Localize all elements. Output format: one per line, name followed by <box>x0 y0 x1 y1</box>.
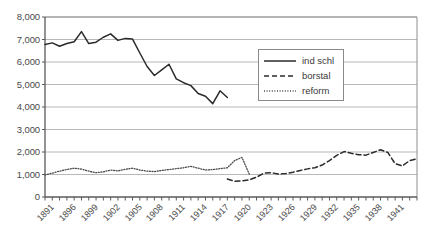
legend-label: borstal <box>302 70 331 82</box>
legend-label: reform <box>302 85 329 97</box>
legend-line-sample-dashed <box>263 70 297 82</box>
legend-line-sample-solid <box>263 55 297 67</box>
series-line-ind-schl <box>45 32 227 104</box>
y-axis-tick-label: 4,000 <box>0 101 40 112</box>
legend-item-borstal[interactable]: borstal <box>259 68 343 83</box>
y-axis-tick-label: 0 <box>0 191 40 202</box>
y-axis-tick-label: 3,000 <box>0 124 40 135</box>
legend-line-sample-dotted <box>263 85 297 97</box>
gridlines <box>45 17 417 175</box>
legend-item-reform[interactable]: reform <box>259 83 343 98</box>
series-line-reform <box>45 157 249 175</box>
legend-item-ind-schl[interactable]: ind schl <box>259 53 343 68</box>
legend-label: ind schl <box>302 55 334 67</box>
y-axis-tick-label: 8,000 <box>0 11 40 22</box>
data-series <box>45 32 417 182</box>
y-axis-tick-label: 2,000 <box>0 146 40 157</box>
y-axis-tick-label: 1,000 <box>0 169 40 180</box>
chart-legend: ind schlborstalreform <box>258 49 344 101</box>
chart-container: 8,0007,0006,0005,0004,0003,0002,0001,000… <box>0 0 435 245</box>
y-axis-tick-label: 7,000 <box>0 34 40 45</box>
y-axis-tick-label: 5,000 <box>0 79 40 90</box>
y-axis-tick-label: 6,000 <box>0 56 40 67</box>
series-line-borstal <box>227 150 417 182</box>
